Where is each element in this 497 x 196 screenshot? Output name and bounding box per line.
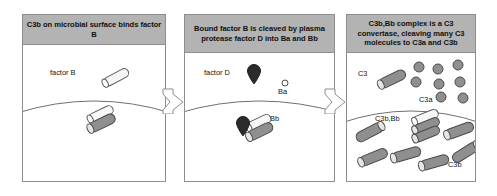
panel-1-body: factor B	[23, 45, 165, 181]
panel-1-header: C3b on microbial surface binds factor B	[23, 15, 165, 45]
panel-c3b-binds-factor-b: C3b on microbial surface binds factor B …	[22, 14, 166, 182]
panel-factor-b-cleaved: Bound factor B is cleaved by plasma prot…	[184, 14, 335, 182]
factor-d-teardrop	[246, 63, 262, 85]
c3a-circle	[436, 92, 446, 102]
panel-3-body: C3	[347, 53, 475, 181]
c3a-circle	[453, 60, 463, 70]
c3a-circle	[455, 77, 465, 87]
panel-2-body: factor D Ba Bb	[185, 53, 334, 181]
c3-label: C3	[358, 70, 367, 78]
panel-c3-convertase: C3b,Bb complex is a C3 convertase, cleav…	[346, 14, 476, 182]
panel-3-header: C3b,Bb complex is a C3 convertase, cleav…	[347, 15, 475, 53]
bb-complex	[232, 108, 284, 150]
ba-label: Ba	[278, 88, 287, 96]
diagram-canvas: C3b on microbial surface binds factor B …	[0, 0, 497, 196]
factor-d-label: factor D	[204, 69, 230, 77]
c3b-rod	[355, 143, 393, 171]
c3b-label: C3b	[448, 161, 462, 169]
c3a-label: C3a	[419, 96, 433, 104]
c3a-circle	[458, 93, 468, 103]
c3-rod	[375, 65, 409, 91]
arrow-panel2-to-panel3	[323, 88, 347, 114]
panel-2-header: Bound factor B is cleaved by plasma prot…	[185, 15, 334, 53]
arrow-panel1-to-panel2	[161, 88, 185, 114]
c3a-circle	[414, 62, 424, 72]
ba-circle	[281, 79, 289, 87]
factor-b-label: factor B	[50, 69, 75, 77]
c3a-circle	[433, 64, 443, 74]
c3a-circle	[411, 77, 421, 87]
c3a-circle	[434, 79, 444, 89]
c3b-complex	[78, 102, 128, 140]
factor-b-rod	[99, 65, 133, 91]
